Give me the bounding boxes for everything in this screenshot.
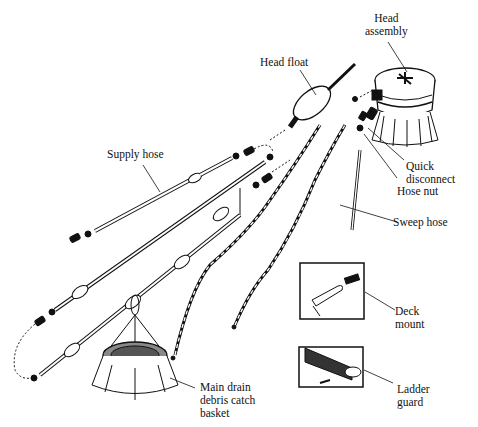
leader-lines	[143, 42, 407, 388]
label-hose-nut: Hose nut	[397, 185, 438, 198]
pool-cleaner-exploded-view	[0, 0, 478, 427]
label-head-assembly: Head assembly	[365, 12, 408, 38]
label-head-float: Head float	[260, 56, 308, 69]
deck-mount-part	[300, 263, 364, 319]
label-deck-mount: Deck mount	[395, 305, 424, 331]
head-assembly-part	[372, 68, 438, 147]
label-quick-disconnect: Quick disconnect	[406, 160, 455, 186]
ladder-guard-part	[299, 347, 363, 387]
sweep-hose-part	[171, 125, 360, 360]
label-ladder-guard: Ladder guard	[397, 383, 430, 409]
label-supply-hose: Supply hose	[107, 148, 164, 161]
label-sweep-hose: Sweep hose	[393, 216, 448, 229]
label-main-drain-basket: Main drain debris catch basket	[200, 381, 255, 420]
main-drain-basket-part	[92, 295, 178, 400]
